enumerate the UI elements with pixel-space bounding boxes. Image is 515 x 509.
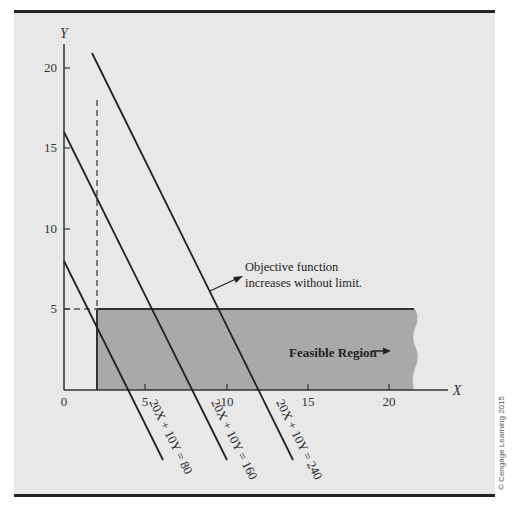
x-tick-label-0: 0 <box>61 394 68 409</box>
annotation-text-line1: Objective function <box>245 260 339 274</box>
y-axis-label: Y <box>60 26 70 41</box>
line-label-80: 20X + 10Y = 80 <box>146 397 195 476</box>
copyright-text: © Cengage Learning 2015 <box>497 396 506 490</box>
line-label-240: 20X + 10Y = 240 <box>273 397 325 482</box>
objective-line-240 <box>92 53 293 460</box>
objective-line-160 <box>64 132 227 460</box>
feasible-region-label: Feasible Region <box>289 345 378 360</box>
y-tick-label-20: 20 <box>44 60 57 75</box>
y-tick-label-10: 10 <box>44 221 57 236</box>
chart-svg: 5 10 15 20 0 5 10 15 20 Y X 20X + 10Y = … <box>0 0 515 509</box>
x-tick-label-20: 20 <box>383 394 396 409</box>
annotation-arrowhead-icon <box>233 276 243 283</box>
y-tick-label-15: 15 <box>44 140 57 155</box>
annotation-text-line2: increases without limit. <box>245 276 362 290</box>
x-tick-label-15: 15 <box>302 394 315 409</box>
x-axis-label: X <box>452 383 462 398</box>
x-tick-label-5: 5 <box>142 394 149 409</box>
y-tick-label-5: 5 <box>51 301 58 316</box>
annotation-arrow-shaft <box>210 278 238 291</box>
